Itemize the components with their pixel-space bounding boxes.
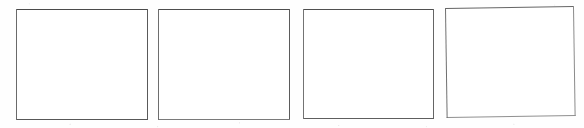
box-2-bottom-border [158,119,290,120]
box-1-left-border [16,9,17,120]
box-4-left-border [445,8,448,118]
box-3-left-border [303,9,304,119]
form-box-1[interactable] [16,9,148,120]
box-3-right-border [433,9,434,119]
form-box-2[interactable] [158,9,290,120]
scanned-page [0,0,584,128]
box-2-left-border [158,9,159,120]
box-4-top-border [445,6,574,9]
box-1-right-border [147,9,148,120]
box-1-top-border [16,9,148,10]
box-3-top-border [303,9,434,10]
box-2-top-border [158,9,290,10]
form-box-4[interactable] [445,6,576,118]
box-4-bottom-border [447,115,576,118]
box-2-right-border [289,9,290,120]
box-3-bottom-border [303,118,434,119]
form-box-3[interactable] [303,9,434,119]
box-4-right-border [573,6,576,116]
box-1-bottom-border [16,119,148,120]
